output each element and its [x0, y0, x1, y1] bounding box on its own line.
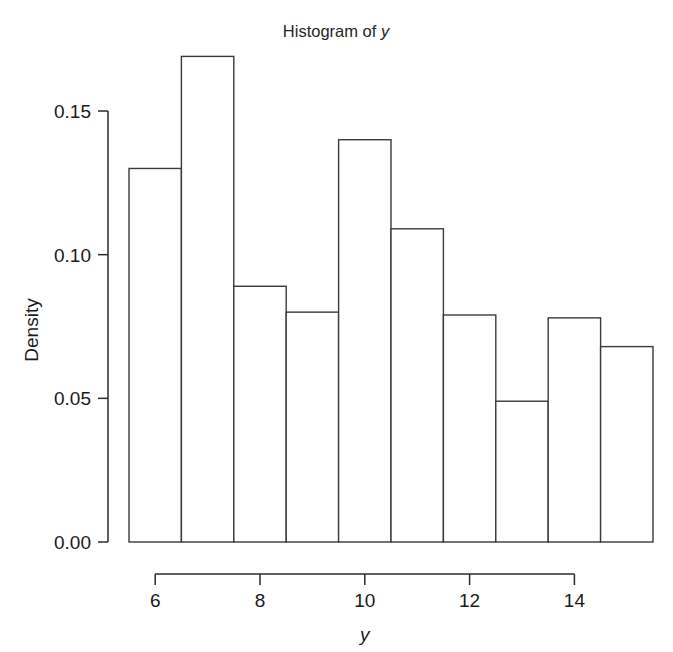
histogram-bar — [496, 401, 548, 542]
histogram-bar — [601, 347, 653, 542]
histogram-bar — [286, 312, 338, 542]
histogram-bar — [181, 56, 233, 542]
histogram-plot: Histogram of y 0.000.050.100.15 Density … — [0, 0, 673, 652]
histogram-bars — [129, 56, 653, 542]
histogram-bar — [234, 286, 286, 542]
x-tick-label: 10 — [354, 590, 375, 611]
y-tick-label: 0.15 — [54, 101, 91, 122]
histogram-bar — [391, 229, 443, 542]
x-axis — [155, 574, 574, 585]
histogram-bar — [548, 318, 600, 542]
y-tick-label: 0.10 — [54, 245, 91, 266]
y-axis — [98, 111, 108, 542]
x-axis-tick-labels: 68101214 — [150, 590, 585, 611]
x-tick-label: 14 — [564, 590, 586, 611]
x-tick-label: 12 — [459, 590, 480, 611]
y-axis-title: Density — [21, 298, 42, 362]
chart-title: Histogram of y — [283, 22, 391, 40]
x-axis-title: y — [358, 624, 371, 645]
y-axis-tick-labels: 0.000.050.100.15 — [54, 101, 91, 553]
histogram-bar — [443, 315, 495, 542]
y-tick-label: 0.05 — [54, 388, 91, 409]
x-tick-label: 8 — [255, 590, 266, 611]
histogram-bar — [339, 140, 391, 542]
y-tick-label: 0.00 — [54, 532, 91, 553]
histogram-bar — [129, 168, 181, 542]
chart-figure: Histogram of y 0.000.050.100.15 Density … — [0, 0, 673, 652]
x-tick-label: 6 — [150, 590, 161, 611]
